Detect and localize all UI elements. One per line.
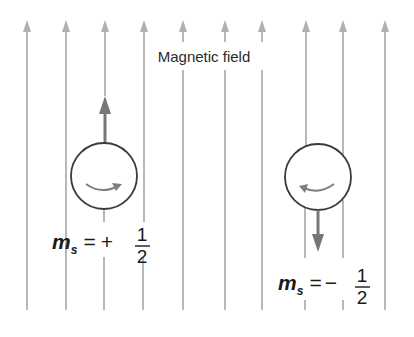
electron-circle <box>285 144 351 210</box>
fraction-numerator: 1 <box>357 265 368 286</box>
spin-label-minus: ms=− <box>278 271 337 298</box>
spin-label-plus: ms=+ <box>52 230 113 257</box>
fraction-denominator: 2 <box>137 246 148 267</box>
field-line-arrowhead-icon <box>302 20 310 32</box>
field-line-arrowhead-icon <box>381 20 389 32</box>
arrow-down-icon <box>312 234 324 252</box>
field-line-arrowhead-icon <box>62 20 70 32</box>
field-line-arrowhead-icon <box>339 20 347 32</box>
field-line-arrowhead-icon <box>101 20 109 32</box>
electron-circle <box>71 143 137 209</box>
magnetic-field-label: Magnetic field <box>158 48 251 65</box>
field-line-arrowhead-icon <box>23 20 31 32</box>
field-line-arrowhead-icon <box>179 20 187 32</box>
field-line-arrowhead-icon <box>140 20 148 32</box>
field-line-arrowhead-icon <box>258 20 266 32</box>
fraction-denominator: 2 <box>357 287 368 308</box>
field-line-arrowhead-icon <box>221 20 229 32</box>
electron-spin-down: ms=− 1 2 <box>278 144 370 308</box>
fraction-numerator: 1 <box>137 224 148 245</box>
arrow-up-icon <box>99 96 111 114</box>
spin-diagram: Magnetic field ms=+ 1 2 ms=− 1 2 <box>0 0 414 337</box>
